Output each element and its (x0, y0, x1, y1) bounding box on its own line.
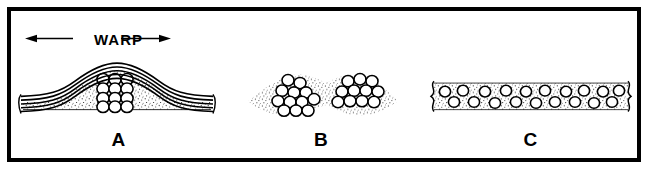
panel-c-label: C (416, 129, 645, 151)
warp-arrow-icon (25, 35, 171, 43)
fiber-row-c-bottom (448, 97, 617, 109)
panel-b-label: B (226, 129, 416, 151)
panel-b: B (226, 11, 416, 158)
panel-c: C (416, 11, 645, 158)
figure-composite-cross-sections: WARP (0, 0, 648, 169)
figure-frame: WARP (7, 7, 641, 162)
panel-a-label: A (11, 129, 226, 151)
panel-a: WARP (11, 11, 226, 158)
